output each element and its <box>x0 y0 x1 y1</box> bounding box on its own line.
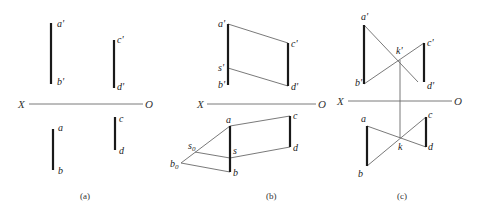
label-a: a <box>226 114 231 125</box>
projection-diagram: X O a' b' c' d' a b c d (a) X O a' s' b'… <box>0 0 479 211</box>
axis-label-o: O <box>454 95 462 107</box>
axis-label-o: O <box>145 98 153 110</box>
axis-label-x: X <box>17 98 26 110</box>
label-d: d <box>428 141 434 152</box>
label-d1: d' <box>291 81 299 92</box>
label-b1: b' <box>355 77 363 88</box>
edge-ad <box>367 126 426 147</box>
label-s1: s' <box>218 62 225 73</box>
label-b0: b0 <box>170 158 179 171</box>
label-b: b <box>58 165 63 176</box>
label-c: c <box>428 109 433 120</box>
edge-sd <box>230 147 290 158</box>
edge-a1d1 <box>364 25 418 82</box>
edge-bc <box>367 117 426 166</box>
edge-ac <box>230 116 290 126</box>
label-c: c <box>119 113 124 124</box>
caption-a: (a) <box>80 191 90 201</box>
edge-b0-b <box>181 163 230 172</box>
label-s: s <box>233 145 237 156</box>
edge-b1c1 <box>364 43 424 84</box>
label-d1: d' <box>117 81 125 92</box>
label-c: c <box>293 110 298 121</box>
label-k1: k' <box>396 45 403 56</box>
label-b: b <box>233 167 238 178</box>
label-c1: c' <box>291 38 298 49</box>
label-d1: d' <box>427 80 435 91</box>
label-d: d <box>293 142 299 153</box>
label-b1: b' <box>57 76 65 87</box>
axis-label-x: X <box>196 98 205 110</box>
label-b1: b' <box>218 79 226 90</box>
label-c1: c' <box>117 34 124 45</box>
label-s0: s0 <box>188 140 196 153</box>
label-d: d <box>119 145 125 156</box>
axis-label-o: O <box>318 98 326 110</box>
edge-s1d1 <box>228 68 288 86</box>
label-a1: a' <box>361 11 369 22</box>
label-b: b <box>358 168 363 179</box>
label-a: a <box>361 113 366 124</box>
edge-s0-s <box>195 152 230 158</box>
panel-a: X O a' b' c' d' a b c d (a) <box>17 18 153 201</box>
caption-c: (c) <box>397 191 407 201</box>
label-c1: c' <box>427 37 434 48</box>
caption-b: (b) <box>266 191 277 201</box>
axis-label-x: X <box>336 95 345 107</box>
label-a: a <box>58 122 63 133</box>
label-k: k <box>398 141 403 152</box>
edge-a1c1 <box>228 24 288 43</box>
label-a1: a' <box>57 18 65 29</box>
label-a1: a' <box>218 18 226 29</box>
panel-c: X O a' b' k' c' d' a b k c d (c) <box>336 11 462 201</box>
panel-b: X O a' s' b' c' d' a s b c d s0 b0 (b) <box>170 18 326 201</box>
